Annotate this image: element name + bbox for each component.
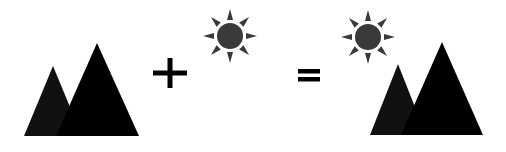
mountains-icon xyxy=(24,43,139,136)
mountains-with-sun-icon xyxy=(341,10,483,135)
large-mountain xyxy=(401,42,483,135)
sun-icon xyxy=(203,9,257,63)
large-mountain xyxy=(56,43,139,136)
equation-diagram: Mountains plus sun equals mountains with… xyxy=(0,0,506,152)
equals-icon xyxy=(298,69,320,82)
sun-icon xyxy=(341,10,395,64)
plus-icon xyxy=(153,58,187,88)
